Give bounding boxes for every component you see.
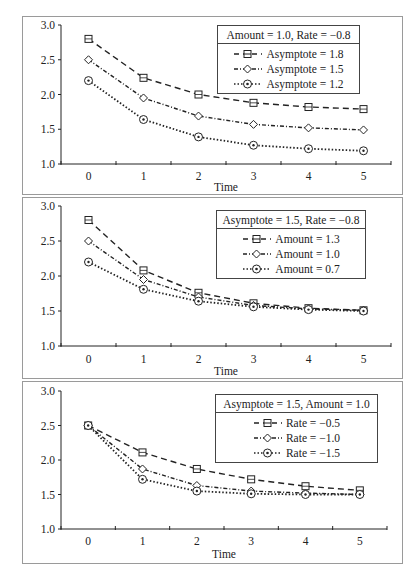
y-tick-label: 3.0 [41, 19, 56, 31]
y-tick-label: 2.0 [41, 89, 56, 101]
legend-label: Amount = 1.0 [275, 248, 339, 260]
x-tick-label: 0 [85, 535, 91, 547]
x-tick-label: 0 [86, 353, 92, 365]
x-tick-label: 2 [196, 170, 202, 182]
x-tick-label: 1 [140, 535, 146, 547]
y-tick-label: 2.0 [41, 454, 56, 466]
legend-label: Asymptote = 1.2 [266, 78, 343, 90]
x-tick-label: 5 [361, 353, 367, 365]
chart-legend: Asymptote = 1.5, Amount = 1.0 Rate = −0.… [215, 394, 378, 463]
x-tick-label: 3 [251, 353, 257, 365]
x-axis-title: Time [212, 548, 236, 560]
x-tick-label: 4 [306, 353, 312, 365]
x-tick-label: 3 [251, 170, 257, 182]
diamond-marker-icon [195, 112, 203, 120]
diamond-marker-icon [250, 120, 258, 128]
y-tick-label: 1.5 [41, 489, 56, 501]
y-tick-label: 3.0 [41, 385, 56, 397]
legend-title: Amount = 1.0, Rate = −0.8 [218, 26, 359, 44]
y-tick-label: 1.0 [41, 340, 56, 352]
diamond-marker-icon [360, 126, 368, 134]
circle-marker-icon [242, 264, 272, 274]
x-tick-label: 2 [196, 353, 202, 365]
chart-legend: Asymptote = 1.5, Rate = −0.8 Amount = 1.… [216, 210, 366, 279]
diamond-marker-icon [305, 124, 313, 132]
square-marker-icon [233, 49, 263, 59]
y-tick-label: 2.0 [41, 270, 56, 282]
legend-label: Rate = −1.5 [286, 447, 340, 459]
diamond-marker-icon [233, 64, 263, 74]
legend-label: Amount = 1.3 [275, 233, 339, 245]
x-tick-label: 0 [86, 170, 92, 182]
legend-item: Rate = −1.0 [216, 430, 377, 445]
legend-label: Asymptote = 1.5 [266, 63, 343, 75]
x-axis-title: Time [214, 181, 238, 193]
legend-item: Rate = −1.5 [216, 445, 377, 460]
legend-item: Amount = 1.0 [217, 246, 365, 261]
chart-legend: Amount = 1.0, Rate = −0.8 Asymptote = 1.… [217, 25, 360, 94]
diamond-marker-icon [242, 249, 272, 259]
chart-panel-amount: 1.01.52.02.53.0012345Time Asymptote = 1.… [22, 197, 403, 379]
y-tick-label: 1.5 [41, 305, 56, 317]
legend-item: Rate = −0.5 [216, 415, 377, 430]
square-marker-icon [253, 418, 283, 428]
legend-title: Asymptote = 1.5, Rate = −0.8 [217, 211, 365, 229]
x-tick-label: 1 [141, 170, 147, 182]
y-tick-label: 1.0 [41, 523, 56, 535]
legend-item: Asymptote = 1.2 [218, 76, 359, 91]
x-tick-label: 1 [141, 353, 147, 365]
x-tick-label: 5 [357, 535, 363, 547]
diamond-marker-icon [140, 94, 148, 102]
legend-label: Asymptote = 1.8 [266, 48, 343, 60]
y-tick-label: 1.0 [41, 158, 56, 170]
legend-item: Asymptote = 1.8 [218, 46, 359, 61]
x-tick-label: 3 [248, 535, 254, 547]
chart-panel-asymptote: 1.01.52.02.53.0012345Time Amount = 1.0, … [22, 16, 403, 195]
legend-item: Amount = 1.3 [217, 231, 365, 246]
legend-title: Asymptote = 1.5, Amount = 1.0 [216, 395, 377, 413]
y-tick-label: 2.5 [41, 54, 56, 66]
x-tick-label: 4 [303, 535, 309, 547]
diamond-marker-icon [85, 56, 93, 64]
legend-label: Rate = −1.0 [286, 432, 340, 444]
y-tick-label: 1.5 [41, 123, 56, 135]
circle-marker-icon [253, 448, 283, 458]
legend-label: Amount = 0.7 [275, 263, 339, 275]
square-marker-icon [242, 234, 272, 244]
y-tick-label: 2.5 [41, 420, 56, 432]
y-tick-label: 2.5 [41, 235, 56, 247]
legend-label: Rate = −0.5 [286, 417, 340, 429]
x-axis-title: Time [214, 365, 238, 377]
x-tick-label: 4 [306, 170, 312, 182]
legend-item: Amount = 0.7 [217, 261, 365, 276]
chart-panel-rate: 1.01.52.02.53.0012345Time Asymptote = 1.… [22, 381, 403, 564]
circle-marker-icon [233, 79, 263, 89]
x-tick-label: 2 [194, 535, 200, 547]
diamond-marker-icon [253, 433, 283, 443]
legend-item: Asymptote = 1.5 [218, 61, 359, 76]
x-tick-label: 5 [361, 170, 367, 182]
y-tick-label: 3.0 [41, 200, 56, 212]
